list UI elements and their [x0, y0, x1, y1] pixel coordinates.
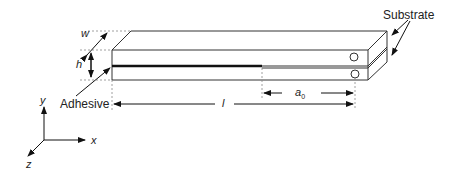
substrate-label: Substrate [383, 9, 434, 21]
axis-x-label: x [91, 135, 97, 146]
extension-lines [80, 31, 355, 110]
adhesive-label: Adhesive [60, 98, 109, 110]
axis-y-label: y [40, 95, 46, 106]
width-dimension-arrow [87, 33, 107, 55]
width-label: w [81, 28, 89, 39]
upper-loading-hole [350, 53, 358, 61]
coordinate-axes [28, 107, 85, 156]
crack-length-label: a0 [295, 87, 305, 100]
substrate-leader-arrow-upper [392, 20, 408, 35]
crack-length-subscript: 0 [301, 93, 305, 100]
length-label: l [222, 98, 224, 109]
beam-right-face [368, 31, 387, 80]
dcb-diagram: Substrate Adhesive w h l a0 y x z [0, 0, 451, 176]
adhesive-leader-arrow [76, 68, 110, 96]
beam-top-face [112, 31, 387, 50]
height-label: h [76, 59, 82, 70]
axis-z-label: z [26, 159, 32, 170]
lower-loading-hole [351, 70, 359, 78]
beam-drawing [0, 0, 451, 176]
